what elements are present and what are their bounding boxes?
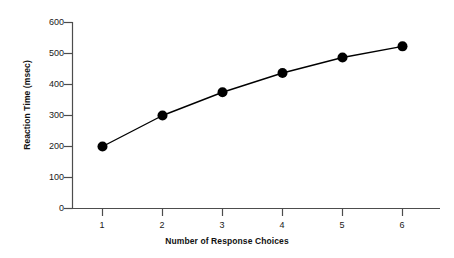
chart-figure: Reaction Time (msec) Number of Response … — [0, 0, 454, 258]
data-line-reaction-time — [103, 46, 403, 146]
data-point-marker — [278, 68, 288, 78]
data-point-marker — [338, 53, 348, 63]
plot-area — [0, 0, 454, 258]
data-markers-group — [98, 41, 408, 151]
data-point-marker — [218, 87, 228, 97]
x-axis-ticks — [103, 209, 403, 217]
data-point-marker — [398, 41, 408, 51]
data-point-marker — [158, 111, 168, 121]
data-point-marker — [98, 142, 108, 152]
y-axis-ticks — [64, 23, 73, 209]
